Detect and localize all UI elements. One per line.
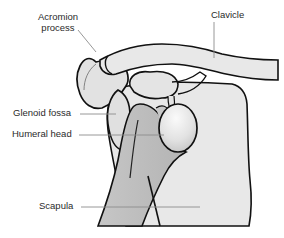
label-acromion-line2: process [30, 22, 86, 33]
humeral-head [159, 104, 197, 152]
coracoid-process [130, 72, 178, 99]
leader-acromion [78, 30, 96, 52]
label-glenoid-fossa: Glenoid fossa [13, 107, 71, 118]
label-acromion-line1: Acromion [30, 11, 86, 22]
label-humeral-head: Humeral head [12, 128, 72, 139]
label-scapula: Scapula [39, 200, 73, 211]
label-clavicle: Clavicle [211, 9, 244, 20]
label-acromion-process: Acromion process [30, 11, 86, 33]
